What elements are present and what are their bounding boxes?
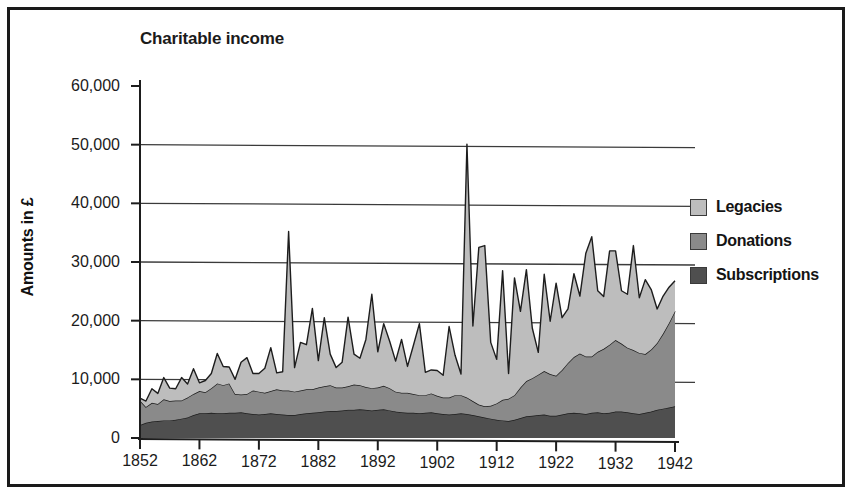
legend-label-subscriptions: Subscriptions <box>716 266 819 284</box>
chart-page: Charitable income Amounts in £ 010,00020… <box>0 0 854 498</box>
gridline-y-50000 <box>140 145 695 148</box>
y-axis-title: Amounts in £ <box>19 157 37 337</box>
x-tick-label-1942: 1942 <box>657 455 693 473</box>
y-axis-tick-labels: 010,00020,00030,00040,00050,00060,000 <box>46 0 120 498</box>
y-tick-label-40000: 40,000 <box>46 194 120 212</box>
legend-label-donations: Donations <box>716 232 792 250</box>
legend-swatch-donations <box>690 233 707 250</box>
legend-label-legacies: Legacies <box>716 198 782 216</box>
x-tick-label-1882: 1882 <box>301 453 337 471</box>
y-tick-label-0: 0 <box>46 429 120 447</box>
x-tick-label-1852: 1852 <box>122 452 158 470</box>
gridline-y-40000 <box>140 203 695 206</box>
x-tick-label-1922: 1922 <box>538 454 574 472</box>
y-tick-label-20000: 20,000 <box>46 312 120 330</box>
y-tick-label-10000: 10,000 <box>46 370 120 388</box>
legend-item-subscriptions[interactable]: Subscriptions <box>690 260 840 290</box>
y-tick-label-50000: 50,000 <box>46 136 120 154</box>
legend-swatch-legacies <box>690 199 707 216</box>
x-tick-label-1892: 1892 <box>360 453 396 471</box>
x-axis-tick-labels: 1852186218721882189219021912192219321942 <box>0 452 854 480</box>
legend-item-donations[interactable]: Donations <box>690 226 840 256</box>
x-axis-line <box>138 439 679 442</box>
y-tick-label-30000: 30,000 <box>46 253 120 271</box>
x-tick-label-1902: 1902 <box>419 454 455 472</box>
legend-item-legacies[interactable]: Legacies <box>690 192 840 222</box>
x-tick-label-1872: 1872 <box>241 453 277 471</box>
chart-title: Charitable income <box>140 29 284 49</box>
legend-swatch-subscriptions <box>690 267 707 284</box>
x-tick-label-1912: 1912 <box>479 454 515 472</box>
x-tick-label-1862: 1862 <box>182 452 218 470</box>
y-tick-label-60000: 60,000 <box>46 77 120 95</box>
x-tick-label-1932: 1932 <box>598 455 634 473</box>
chart-legend: LegaciesDonationsSubscriptions <box>690 192 840 294</box>
